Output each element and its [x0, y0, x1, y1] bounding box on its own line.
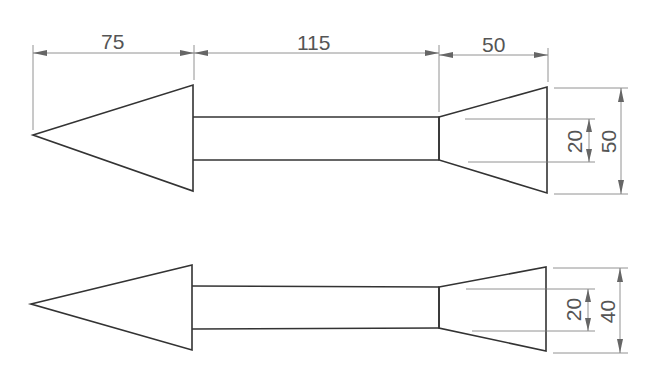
dim-label-top-20: 20 — [564, 130, 585, 153]
dim-label-115: 115 — [297, 32, 330, 53]
dim-label-top-50: 50 — [598, 130, 619, 153]
dim-label-bottom-40: 40 — [597, 300, 618, 323]
bottom-arrow-shape — [31, 265, 546, 351]
top-dimension-lines — [33, 45, 628, 194]
top-arrow-shape — [33, 85, 547, 193]
dim-label-50-horizontal: 50 — [482, 34, 505, 55]
dim-label-75: 75 — [101, 31, 124, 52]
technical-drawing: 75 115 50 20 50 20 40 — [0, 0, 663, 371]
dim-label-bottom-20: 20 — [563, 298, 584, 321]
